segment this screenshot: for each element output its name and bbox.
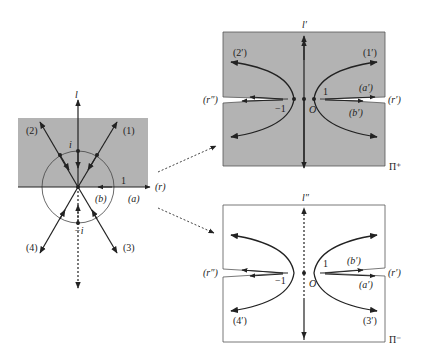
label-r-double-prime-lower: (r″)	[203, 267, 218, 279]
real-axis-label: (r)	[155, 181, 166, 193]
ray-label-4: (4)	[26, 242, 38, 254]
label-origin-lower: O	[309, 278, 316, 289]
lower-sheet: l″ Π⁻ (3′) (4′) (r′) (r″) (a′) (b′) 1 −1…	[203, 192, 401, 345]
ray-label-1: (1)	[123, 125, 135, 137]
label-3-prime: (3′)	[363, 315, 377, 327]
point-i-label: i	[69, 139, 72, 150]
label-4-prime: (4′)	[233, 315, 247, 327]
label-pi-plus: Π⁺	[389, 161, 401, 172]
label-b-prime-lower: (b′)	[347, 255, 362, 267]
label-r-double-prime: (r″)	[203, 94, 218, 106]
label-one: 1	[323, 86, 328, 97]
label-origin: O	[309, 104, 316, 115]
label-a-prime-lower: (a′)	[359, 279, 374, 291]
ray-label-3: (3)	[123, 242, 135, 254]
ray-4	[40, 187, 78, 253]
label-1-prime: (1′)	[363, 47, 377, 59]
a-label: (a)	[128, 193, 140, 205]
upper-sheet: l′ Π⁺ (1′) (2′) (r′) (r″) (a′) (b′) 1 −1…	[203, 19, 401, 172]
diagram-canvas: l i −i (1) (2) (3) (4) (r) 1 (a) (b) l′ …	[0, 0, 421, 363]
map-arrow-lower	[158, 208, 214, 233]
label-b-prime: (b′)	[349, 107, 364, 119]
label-l-prime: l′	[302, 19, 308, 30]
label-2-prime: (2′)	[233, 47, 247, 59]
label-pi-minus: Π⁻	[389, 334, 401, 345]
label-one-lower: 1	[323, 258, 328, 269]
one-label: 1	[121, 175, 126, 186]
label-l-double-prime: l″	[302, 192, 310, 203]
label-minus-one: −1	[275, 103, 286, 114]
left-z-plane: l i −i (1) (2) (3) (4) (r) 1 (a) (b)	[18, 89, 166, 288]
label-r-prime: (r′)	[388, 94, 401, 106]
label-a-prime: (a′)	[359, 82, 374, 94]
point-minus-i-label: −i	[74, 225, 84, 236]
map-arrow-upper	[158, 146, 216, 172]
b-label: (b)	[95, 193, 107, 205]
axis-label-l: l	[75, 89, 78, 100]
label-r-prime-lower: (r′)	[388, 267, 401, 279]
label-minus-one-lower: −1	[275, 275, 286, 286]
ray-label-2: (2)	[26, 125, 38, 137]
